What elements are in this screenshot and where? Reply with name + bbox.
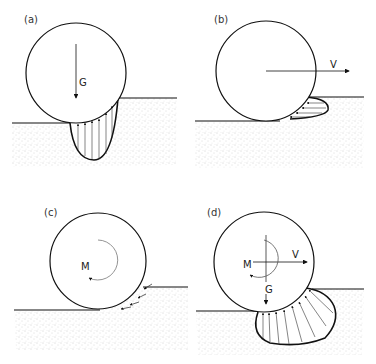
caption-cut-off [6, 354, 366, 364]
wheel [50, 213, 146, 309]
label-M: M [81, 261, 90, 272]
label-V: V [292, 249, 299, 260]
label-M: M [243, 259, 252, 270]
panel-label-a: (a) [24, 14, 38, 25]
wheel-soil-interaction-diagram: G (a) V (b) M (c) [0, 0, 376, 364]
panel-label-b: (b) [214, 14, 228, 25]
panel-label-d: (d) [207, 207, 221, 218]
label-G: G [265, 284, 273, 295]
panel-c: M (c) [14, 207, 188, 350]
panel-b: V (b) [195, 14, 364, 168]
label-G: G [79, 77, 87, 88]
label-V: V [330, 59, 337, 70]
panel-a: G (a) [12, 14, 177, 167]
panel-d: M V G (d) [196, 207, 364, 355]
panel-label-c: (c) [44, 207, 57, 218]
